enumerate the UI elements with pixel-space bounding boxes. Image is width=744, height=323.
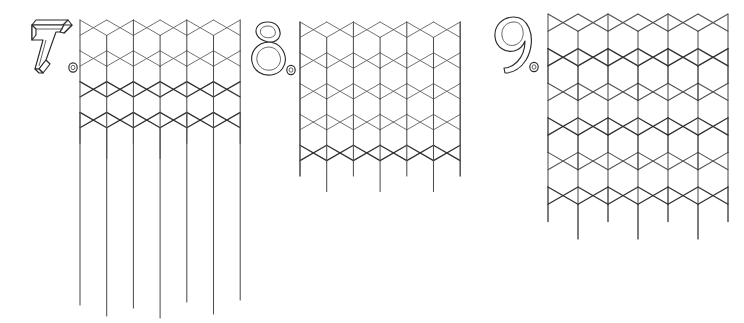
worksheet-sheet (0, 0, 744, 323)
pattern-9-lattice (548, 14, 728, 239)
figure-9-pattern (0, 0, 744, 230)
